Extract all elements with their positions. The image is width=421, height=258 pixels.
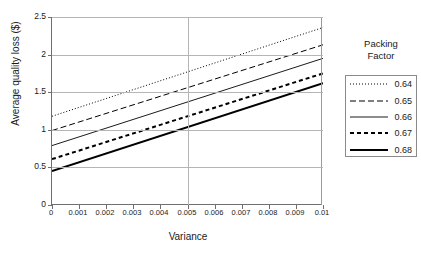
x-tick-label-0.01: 0.01 [302,208,342,217]
chart-container: Average quality loss ($) 2.5 2 1.5 1 0.5… [0,0,421,258]
legend-label-0.66: 0.66 [389,112,416,122]
y-tick-label-1.5: 1.5 [16,87,46,96]
y-tick-label-1: 1 [16,125,46,134]
legend-item-0.65[interactable]: 0.65 [346,92,416,108]
y-tick-2.5 [48,17,52,18]
legend-item-0.68[interactable]: 0.68 [346,142,416,158]
legend-title-line1: Packing [345,38,417,50]
y-axis-title: Average quality loss ($) [10,4,21,144]
legend-title-block: Packing Factor [345,38,417,61]
x-axis-title: Variance [118,231,258,242]
y-tick-2 [48,55,52,56]
legend-label-0.64: 0.64 [389,79,416,89]
legend-item-0.64[interactable]: 0.64 [346,76,416,92]
legend-item-0.67[interactable]: 0.67 [346,125,416,141]
gridline-x-0.005 [188,17,189,205]
legend-item-0.66[interactable]: 0.66 [346,109,416,125]
legend-swatch-0.64 [349,79,389,89]
y-tick-0.5 [48,167,52,168]
plot-area [51,17,322,205]
legend-swatch-0.65 [349,96,389,106]
legend-label-0.65: 0.65 [389,96,416,106]
y-tick-1 [48,130,52,131]
legend-title-line2: Factor [345,50,417,62]
plot-frame-right [321,17,322,205]
y-tick-label-2: 2 [16,50,46,59]
legend-label-0.67: 0.67 [389,128,416,138]
legend-label-0.68: 0.68 [389,145,416,155]
y-tick-label-0.5: 0.5 [16,162,46,171]
legend-swatch-0.66 [349,112,389,122]
legend-box: 0.640.650.660.670.68 [345,75,417,157]
y-tick-label-2.5: 2.5 [16,12,46,21]
legend-swatch-0.68 [349,145,389,155]
legend-swatch-0.67 [349,128,389,138]
y-tick-1.5 [48,92,52,93]
